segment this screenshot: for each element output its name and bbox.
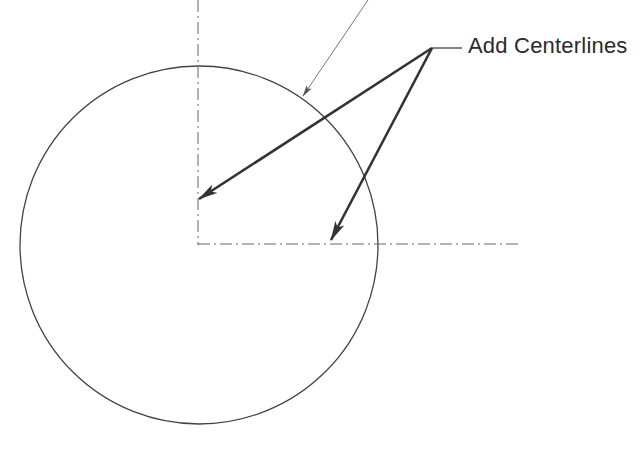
circle-outline <box>20 66 378 424</box>
callout-label-add-centerlines: Add Centerlines <box>468 33 628 59</box>
thin-leader-line <box>303 0 368 96</box>
leader-arrow-to-vertical-centerline <box>199 48 432 199</box>
centerline-diagram <box>0 0 643 469</box>
